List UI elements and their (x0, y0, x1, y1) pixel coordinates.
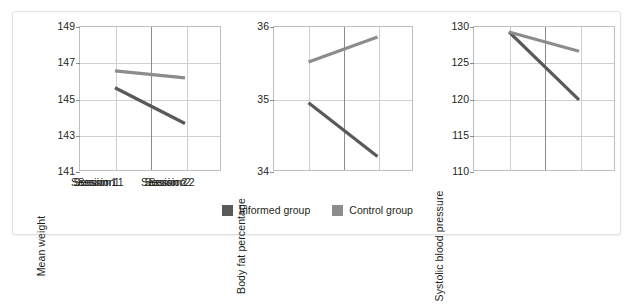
y-tick-label: 34 (243, 165, 269, 177)
y-axis-title-3: Systolic blood pressure (433, 171, 447, 305)
y-tick-label: 147 (49, 56, 75, 68)
y-tick-mark (270, 172, 274, 173)
y-tick-label: 115 (443, 129, 469, 141)
plot-area-3 (473, 26, 615, 171)
chart-panel-1: Mean weight149147145143141Session 1Sessi… (27, 12, 213, 194)
data-lines-1 (80, 27, 220, 170)
y-tick-label: 130 (443, 20, 469, 32)
chart-panels-row: Mean weight149147145143141Session 1Sessi… (13, 12, 622, 194)
legend-swatch-icon (332, 205, 343, 216)
chart-legend: Informed groupControl group (13, 198, 622, 222)
legend-swatch-icon (222, 205, 233, 216)
y-axis-title-2: Body fat percentage (235, 171, 249, 305)
y-axis-ticks-3: 130125120115110 (443, 26, 469, 171)
y-tick-label: 36 (243, 20, 269, 32)
y-axis-title-1: Mean weight (35, 171, 49, 305)
y-axis-ticks-1: 149147145143141 (49, 26, 75, 171)
y-axis-ticks-2: 363534 (243, 26, 269, 171)
series-line-informed-group (115, 88, 185, 124)
x-tick-label: Session 2 (144, 176, 190, 188)
y-tick-label: 143 (49, 129, 75, 141)
y-tick-mark (76, 172, 80, 173)
data-lines-3 (474, 27, 614, 170)
series-line-control-group (309, 37, 378, 62)
series-line-informed-group (309, 103, 378, 157)
legend-label: Informed group (239, 204, 310, 216)
x-tick-label: Session 1 (73, 176, 119, 188)
plot-area-1 (79, 26, 221, 171)
y-tick-label: 35 (243, 93, 269, 105)
y-tick-mark (470, 172, 474, 173)
data-lines-2 (274, 27, 412, 170)
y-tick-label: 145 (49, 93, 75, 105)
y-tick-label: 125 (443, 56, 469, 68)
plot-area-2 (273, 26, 413, 171)
legend-label: Control group (349, 204, 413, 216)
y-tick-label: 110 (443, 165, 469, 177)
y-tick-label: 120 (443, 93, 469, 105)
figure-frame: Mean weight149147145143141Session 1Sessi… (12, 11, 621, 235)
legend-item-informed-group: Informed group (222, 204, 310, 216)
series-line-control-group (115, 71, 185, 78)
legend-item-control-group: Control group (332, 204, 413, 216)
y-tick-label: 149 (49, 20, 75, 32)
